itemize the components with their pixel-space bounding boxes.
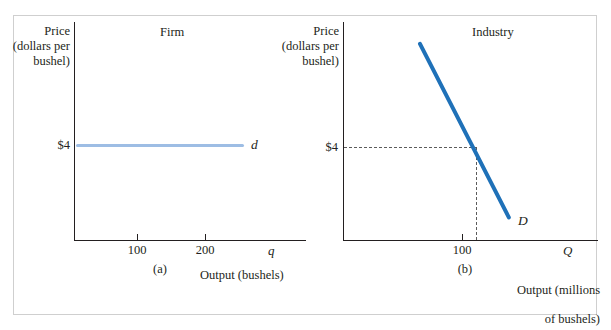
industry-y-axis-title: Price (dollars per bushel) [263, 24, 339, 68]
panel-industry: Price (dollars per bushel) Industry $4 D… [300, 0, 611, 304]
firm-x-axis-title: Output (bushels) [200, 268, 284, 283]
industry-x-tick-100 [462, 234, 463, 240]
industry-x-variable-label: Q [563, 243, 572, 258]
industry-price-label: $4 [312, 140, 338, 155]
industry-y-axis [343, 22, 344, 241]
firm-x-tick-label-100: 100 [117, 243, 157, 258]
industry-price-guide-horizontal [344, 147, 477, 148]
industry-x-axis [343, 240, 598, 241]
industry-x-axis-title-line2: of bushels) [545, 312, 600, 326]
panel-firm: Price (dollars per bushel) Firm $4 d 100… [0, 0, 306, 304]
industry-x-tick-label-100: 100 [442, 243, 482, 258]
firm-y-axis-title: Price (dollars per bushel) [0, 24, 70, 68]
firm-panel-title: Firm [160, 25, 184, 40]
firm-demand-curve-label: d [251, 137, 258, 153]
firm-x-tick-label-200: 200 [185, 243, 225, 258]
industry-panel-caption: (b) [445, 262, 485, 277]
firm-demand-curve [76, 144, 244, 147]
industry-demand-curve [417, 41, 511, 220]
firm-x-tick-100 [137, 234, 138, 240]
industry-x-axis-title: Output (millions of bushels) [480, 268, 600, 330]
firm-panel-caption: (a) [140, 262, 180, 277]
industry-demand-curve-label: D [518, 213, 528, 229]
firm-x-axis [74, 240, 306, 241]
firm-x-variable-label: q [268, 243, 275, 258]
industry-x-axis-title-line1: Output (millions [517, 283, 600, 297]
firm-x-tick-200 [205, 234, 206, 240]
firm-y-axis [74, 22, 75, 241]
firm-price-label: $4 [44, 138, 70, 153]
industry-panel-title: Industry [472, 25, 514, 40]
